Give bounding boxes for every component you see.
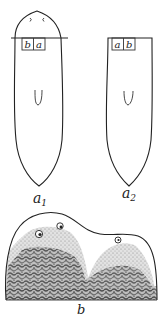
a1-graft-label-right: a	[36, 39, 42, 50]
b-eye-1-icon	[35, 230, 42, 237]
b-label: b	[77, 302, 85, 317]
a1-pharynx	[35, 90, 42, 105]
b-eye-3-icon	[115, 237, 121, 243]
a1-graft-label-left: b	[25, 39, 31, 50]
b-pigment-bottom	[6, 286, 157, 300]
a2-pharynx	[124, 91, 133, 105]
a2-graft-label-right: b	[126, 39, 132, 50]
a1-eye-right-icon	[43, 18, 44, 22]
a1-body-outline	[14, 11, 63, 186]
panel-a2: a b a2	[106, 38, 152, 203]
a2-graft-label-left: a	[115, 39, 121, 50]
b-eye-2-icon	[57, 223, 63, 229]
panel-a1: b a a1	[11, 11, 68, 208]
a2-body-outline	[106, 38, 152, 186]
planarian-figure: b a a1 a b a2	[0, 0, 166, 318]
panel-b: b	[6, 213, 157, 318]
a1-label: a1	[33, 190, 47, 208]
a2-label: a2	[122, 185, 136, 203]
a1-eye-left-icon	[30, 18, 31, 22]
